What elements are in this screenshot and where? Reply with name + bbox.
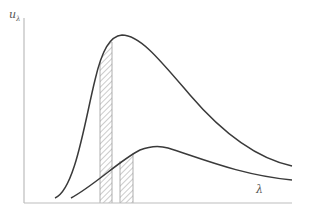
tall-curve [55, 35, 292, 198]
diagram-canvas: uλ λ [0, 0, 311, 214]
y-axis-label: uλ [9, 8, 21, 23]
x-axis-label: λ [255, 183, 263, 196]
blackbody-diagram: uλ λ [0, 0, 311, 214]
hatched-strip-low [120, 140, 133, 203]
